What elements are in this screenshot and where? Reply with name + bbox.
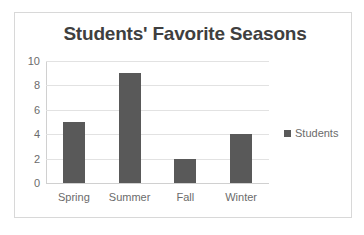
bar-slot: Fall — [158, 61, 214, 183]
plot-area: 0246810 SpringSummerFallWinter — [46, 61, 269, 183]
y-axis-tick-label: 6 — [34, 104, 40, 116]
bar-slot: Summer — [102, 61, 158, 183]
chart-container: Students' Favorite Seasons 0246810 Sprin… — [14, 12, 352, 218]
x-axis-tick-label: Summer — [109, 191, 151, 203]
gridline — [46, 183, 269, 184]
x-axis-tick-label: Winter — [225, 191, 257, 203]
y-axis-tick-label: 4 — [34, 128, 40, 140]
bar-slot: Spring — [46, 61, 102, 183]
legend-label: Students — [295, 127, 338, 139]
bar — [174, 159, 196, 183]
chart-title: Students' Favorite Seasons — [35, 23, 335, 45]
x-axis-tick-label: Fall — [177, 191, 195, 203]
bar-slot: Winter — [213, 61, 269, 183]
bar — [230, 134, 252, 183]
bar — [63, 122, 85, 183]
chart-legend: Students — [284, 127, 338, 139]
y-axis-tick-label: 0 — [34, 177, 40, 189]
y-axis-tick-label: 10 — [28, 55, 40, 67]
y-axis-tick-label: 8 — [34, 79, 40, 91]
y-axis-tick-label: 2 — [34, 153, 40, 165]
legend-swatch-icon — [284, 130, 291, 137]
bar — [119, 73, 141, 183]
x-axis-tick-label: Spring — [58, 191, 90, 203]
